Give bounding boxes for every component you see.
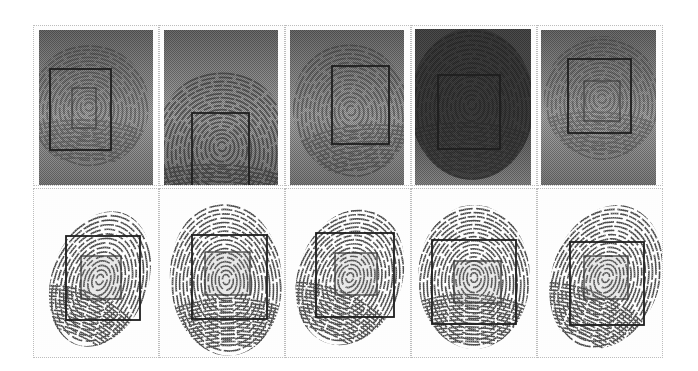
- fingerprint-image: [286, 189, 411, 358]
- fingerprint-cell-rolled-2: [159, 188, 285, 358]
- fingerprint-cell-latent-3: [285, 25, 411, 186]
- fingerprint-figure: [0, 0, 698, 371]
- fingerprint-image: [34, 189, 159, 358]
- fingerprint-cell-rolled-3: [285, 188, 411, 358]
- fingerprint-image: [412, 189, 537, 358]
- fingerprint-image: [160, 26, 285, 186]
- fingerprint-image: [538, 189, 663, 358]
- fingerprint-cell-latent-5: [537, 25, 663, 186]
- fingerprint-image: [160, 189, 285, 358]
- fingerprint-cell-rolled-4: [411, 188, 537, 358]
- fingerprint-cell-latent-1: [33, 25, 159, 186]
- fingerprint-cell-rolled-1: [33, 188, 159, 358]
- fingerprint-cell-rolled-5: [537, 188, 663, 358]
- fingerprint-cell-latent-2: [159, 25, 285, 186]
- fingerprint-image: [538, 26, 663, 186]
- fingerprint-cell-latent-4: [411, 25, 537, 186]
- fingerprint-grid: [33, 25, 663, 358]
- fingerprint-image: [286, 26, 411, 186]
- fingerprint-image: [412, 26, 537, 186]
- fingerprint-image: [34, 26, 159, 186]
